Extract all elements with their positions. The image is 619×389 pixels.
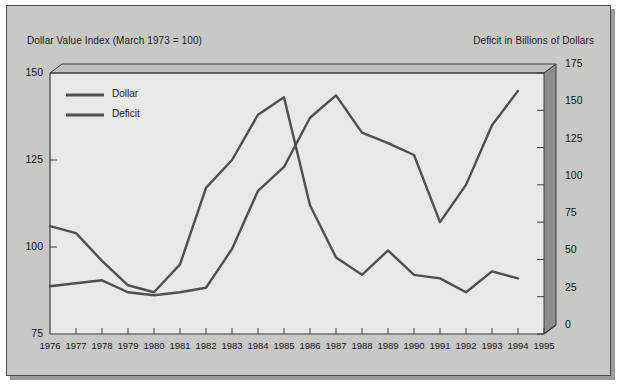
right-axis-tick-label: 0 bbox=[565, 318, 599, 330]
right-axis-tick-label: 125 bbox=[565, 132, 599, 144]
right-axis-tick-label: 25 bbox=[565, 281, 599, 293]
plot-top-face bbox=[50, 64, 556, 73]
legend-label-deficit: Deficit bbox=[112, 108, 140, 119]
right-axis-tick-label: 50 bbox=[565, 243, 599, 255]
left-axis-tick-label: 150 bbox=[13, 66, 43, 78]
left-axis-tick-label: 125 bbox=[13, 153, 43, 165]
right-axis-tick-label: 100 bbox=[565, 169, 599, 181]
legend-label-dollar: Dollar bbox=[112, 88, 138, 99]
right-axis-tick-label: 75 bbox=[565, 206, 599, 218]
plot-3d-frame bbox=[50, 64, 556, 334]
plot-right-wall bbox=[544, 64, 556, 334]
right-axis-tick-label: 150 bbox=[565, 94, 599, 106]
right-axis-tick-label: 175 bbox=[565, 57, 599, 69]
plot-canvas bbox=[0, 0, 619, 389]
left-axis-tick-label: 100 bbox=[13, 240, 43, 252]
chart-figure: Dollar Value Index (March 1973 = 100) De… bbox=[0, 0, 619, 389]
x-axis-tick-label: 1995 bbox=[527, 340, 561, 351]
left-axis-tick-label: 75 bbox=[13, 327, 43, 339]
